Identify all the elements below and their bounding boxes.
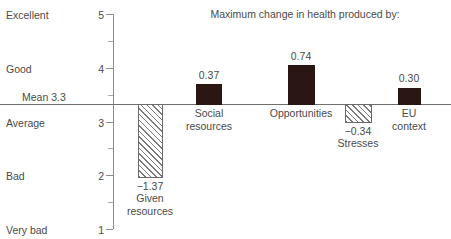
y-tick-major-1 (106, 229, 113, 230)
scale-label-good: Good (6, 63, 32, 75)
bar-label-eu-context: EU context (388, 107, 430, 132)
y-tick-label-2: 2 (86, 170, 104, 182)
scale-label-very-bad: Very bad (6, 224, 47, 236)
y-tick-minor-3-5 (108, 95, 113, 96)
y-tick-major-2 (106, 175, 113, 176)
y-tick-major-4 (106, 68, 113, 69)
y-tick-label-3: 3 (86, 117, 104, 129)
y-tick-major-5 (106, 14, 113, 15)
bar-value-social-resources: 0.37 (199, 69, 219, 81)
y-tick-minor-2-5 (108, 148, 113, 149)
mean-baseline-rule (0, 104, 451, 105)
y-tick-label-4: 4 (86, 63, 104, 75)
bar-opportunities (288, 65, 315, 105)
bar-value-eu-context: 0.30 (399, 72, 419, 84)
y-tick-minor-1-5 (108, 202, 113, 203)
bar-given-resources (138, 104, 163, 178)
bar-value-stresses: −0.34 (345, 125, 372, 137)
scale-label-bad: Bad (6, 170, 25, 182)
chart-title: Maximum change in health produced by: (210, 8, 399, 20)
bar-stresses (345, 104, 372, 123)
bar-social-resources (196, 84, 222, 105)
y-tick-label-1: 1 (86, 224, 104, 236)
bar-eu-context (398, 88, 421, 105)
y-tick-minor-4-5 (108, 41, 113, 42)
scale-label-average: Average (6, 117, 45, 129)
y-tick-label-5: 5 (86, 9, 104, 21)
bar-value-opportunities: 0.74 (291, 50, 311, 62)
mean-line-label: Mean 3.3 (22, 91, 66, 103)
y-axis-spine (113, 14, 114, 229)
bar-value-given-resources: −1.37 (137, 180, 164, 192)
y-tick-major-3 (106, 122, 113, 123)
bar-label-social-resources: Social resources (186, 107, 232, 132)
bar-label-stresses: Stresses (338, 137, 379, 150)
scale-label-excellent: Excellent (6, 9, 49, 21)
bar-label-opportunities: Opportunities (270, 107, 332, 120)
bar-label-given-resources: Given resources (127, 192, 173, 217)
health-change-bar-chart: Maximum change in health produced by: Ex… (0, 0, 451, 239)
